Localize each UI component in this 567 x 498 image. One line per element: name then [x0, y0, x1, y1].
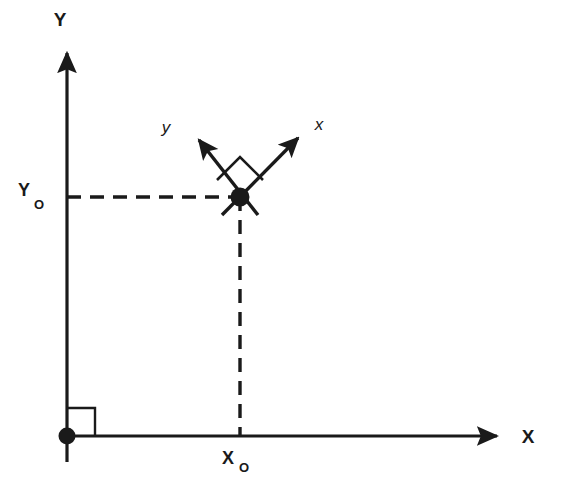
- y0-coordinate-label: Y O: [18, 180, 44, 212]
- local-y-axis-line: [199, 140, 258, 215]
- local-y-axis-label: y: [161, 118, 172, 137]
- local-axes-right-angle-icon: [217, 157, 263, 180]
- x0-label-main: X: [222, 448, 234, 468]
- y0-label-subscript: O: [34, 197, 44, 212]
- global-x-axis-label: X: [522, 426, 535, 447]
- projection-lines: [67, 197, 240, 436]
- diagram-canvas: Y X x y X: [0, 0, 567, 498]
- point-marker: [231, 188, 250, 207]
- coordinate-system-diagram: Y X x y X: [0, 0, 567, 498]
- y0-label-main: Y: [18, 180, 30, 200]
- origin-marker: [59, 428, 76, 445]
- x0-coordinate-label: X O: [222, 448, 249, 475]
- local-x-axis-label: x: [314, 115, 324, 134]
- global-x-axis: X: [67, 426, 535, 447]
- x0-label-subscript: O: [239, 460, 249, 475]
- global-y-axis: Y: [54, 9, 67, 462]
- global-y-axis-label: Y: [54, 9, 67, 30]
